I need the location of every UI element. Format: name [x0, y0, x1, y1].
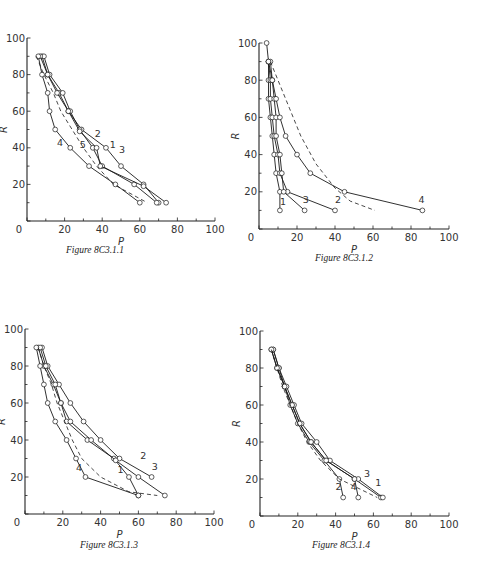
figure-caption: Figure 8C3.1.4 — [312, 540, 370, 550]
y-tick-label: 100 — [239, 326, 258, 337]
series-dashed — [271, 350, 377, 498]
x-tick-label: 40 — [329, 519, 342, 530]
y-tick-label: 60 — [245, 400, 258, 411]
series-line — [271, 350, 358, 498]
series-label: 1 — [375, 477, 381, 488]
y-tick-label: 20 — [245, 474, 258, 485]
series-label: 2 — [336, 481, 342, 492]
data-point-marker — [341, 495, 346, 500]
x-tick-label: 80 — [405, 519, 418, 530]
data-point-marker — [309, 440, 314, 445]
x-tick-label: 100 — [439, 519, 458, 530]
data-point-marker — [314, 440, 319, 445]
y-tick-label: 40 — [245, 437, 258, 448]
chart-svg: 02040608010020406080100PR1234 — [0, 0, 480, 562]
series-4: 4 — [269, 347, 361, 500]
series-label: 3 — [364, 468, 370, 479]
series-line — [271, 350, 377, 498]
axes: 02040608010020406080100PR — [231, 326, 459, 543]
y-axis-label: R — [231, 420, 242, 427]
x-tick-label: 20 — [291, 519, 304, 530]
x-tick-label: 0 — [249, 519, 255, 530]
data-point-marker — [324, 458, 329, 463]
data-point-marker — [356, 495, 361, 500]
y-tick-label: 80 — [245, 363, 258, 374]
series-3: 3 — [271, 347, 385, 500]
series-line — [271, 350, 343, 498]
series-label: 4 — [351, 481, 357, 492]
data-point-marker — [380, 495, 385, 500]
data-point-marker — [275, 366, 280, 371]
x-tick-label: 60 — [367, 519, 380, 530]
